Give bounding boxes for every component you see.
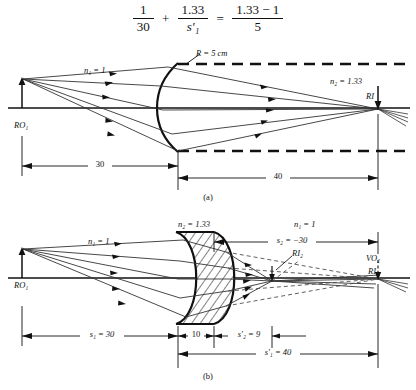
equation: 1 30 + 1.33 s′₁ = 1.33 − 1 5 (0, 2, 416, 36)
object-arrow-head-b (19, 247, 26, 255)
dimension-label-s1prime-b: s′₁ = 40 (256, 347, 300, 357)
equation-equals-operator: = (214, 11, 227, 27)
dimension-label-30-a: 30 (88, 159, 112, 169)
label-object-b: RO₁ (14, 280, 28, 290)
equation-plus-operator: + (159, 11, 172, 27)
label-virtual-object2-b: VO₂ (366, 253, 380, 263)
object-arrow-head-a (19, 77, 26, 85)
rays-past-image2-b (272, 275, 380, 288)
caption-a: (a) (0, 192, 416, 202)
incident-ray-arrowheads-b (110, 242, 126, 306)
figure-a-diagram (0, 48, 416, 198)
label-n2-a: n₂ = 1.33 (330, 76, 362, 86)
equation-term-1: 1 30 (133, 2, 154, 36)
dimension-label-s2-b: s₂ = −30 (268, 235, 316, 245)
equation-term2-denominator: s′₁ (178, 19, 209, 36)
label-object-a: RO₁ (14, 120, 28, 130)
label-n1-left-b: n₁ = 1 (88, 236, 109, 246)
equation-term1-denominator: 30 (133, 19, 154, 36)
incident-rays-a (23, 67, 178, 151)
incident-ray-arrowheads-a (102, 72, 117, 137)
equation-term2-numerator: 1.33 (178, 2, 209, 19)
label-n1-right-b: n₁ = 1 (294, 219, 315, 229)
label-image2-b: RI₂ (292, 248, 303, 258)
equation-term1-numerator: 1 (133, 2, 154, 19)
refracted-ray-arrowheads-a (254, 85, 276, 139)
dimension-label-40-a: 40 (266, 171, 290, 181)
equation-rhs-denominator: 5 (232, 19, 283, 36)
label-n1-a: n₁ = 1 (84, 65, 105, 75)
rays-past-image-a (378, 109, 408, 126)
dimension-label-s2prime-b: s′₂ = 9 (228, 329, 270, 339)
caption-b: (b) (0, 371, 416, 381)
label-radius-a: R = 5 cm (196, 48, 227, 58)
figure-page: 1 30 + 1.33 s′₁ = 1.33 − 1 5 (0, 0, 416, 390)
label-image1-b: RI₁ (368, 266, 379, 276)
label-image-a: RI (366, 91, 374, 101)
equation-rhs-numerator: 1.33 − 1 (232, 2, 283, 19)
dimension-label-thickness-b: 10 (188, 329, 204, 339)
figure-b-diagram (0, 218, 416, 378)
equation-right-hand-side: 1.33 − 1 5 (232, 2, 283, 36)
dimension-label-s1-b: s₁ = 30 (80, 329, 124, 339)
equation-term-2: 1.33 s′₁ (178, 2, 209, 36)
label-n2-lens-b: n₂ = 1.33 (178, 219, 210, 229)
rays-past-final-image-b (378, 279, 408, 292)
